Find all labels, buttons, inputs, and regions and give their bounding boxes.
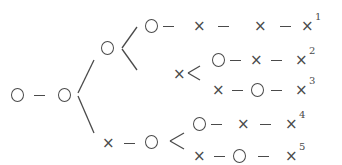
loss-cross: × xyxy=(285,149,298,163)
branch-line-lower xyxy=(78,96,94,133)
loss-cross: × xyxy=(295,83,308,97)
superscript-1: 1 xyxy=(315,12,321,22)
loss-cross: × xyxy=(285,117,298,131)
win-circle xyxy=(233,149,246,163)
win-circle xyxy=(212,53,225,67)
connector-dash xyxy=(211,124,222,125)
superscript-3: 3 xyxy=(309,76,315,86)
branch-line-upper-up xyxy=(122,27,137,48)
connector-dash xyxy=(124,143,135,144)
connector-dash xyxy=(232,90,243,91)
superscript-2: 2 xyxy=(309,46,315,56)
root-win-circle xyxy=(11,88,24,102)
connector-dash xyxy=(271,60,282,61)
connector-dash xyxy=(271,90,282,91)
connector-dash xyxy=(218,26,229,27)
win-circle xyxy=(58,88,71,102)
superscript-5: 5 xyxy=(299,142,305,152)
loss-cross: × xyxy=(254,19,267,33)
branch-lines xyxy=(0,0,342,165)
loss-cross: × xyxy=(295,53,308,67)
fork-4-5-up xyxy=(170,133,184,141)
superscript-4: 4 xyxy=(299,110,305,120)
connector-dash xyxy=(230,60,241,61)
fork-4-5-down xyxy=(170,141,184,149)
branch-line-upper-down xyxy=(122,49,137,70)
connector-dash xyxy=(260,124,271,125)
win-circle xyxy=(145,19,158,33)
loss-cross: × xyxy=(193,19,206,33)
connector-dash xyxy=(214,156,225,157)
connector-dash xyxy=(163,26,174,27)
connector-dash xyxy=(258,156,269,157)
connector-dash xyxy=(34,95,45,96)
loss-cross: × xyxy=(173,67,186,81)
connector-dash xyxy=(280,26,291,27)
tree-diagram: × × × 1 × × × 2 × × 3 × × × 4 × × 5 xyxy=(0,0,342,165)
win-circle xyxy=(251,83,264,97)
loss-cross: × xyxy=(102,136,115,150)
loss-cross: × xyxy=(250,53,263,67)
win-circle xyxy=(101,41,114,55)
win-circle xyxy=(145,135,158,149)
loss-cross: × xyxy=(237,117,250,131)
fork-2-3-up xyxy=(188,66,200,73)
loss-cross: × xyxy=(212,83,225,97)
fork-2-3-down xyxy=(188,73,200,80)
loss-cross: × xyxy=(193,149,206,163)
loss-cross: × xyxy=(301,19,314,33)
branch-line-upper xyxy=(78,60,94,93)
win-circle xyxy=(193,117,206,131)
